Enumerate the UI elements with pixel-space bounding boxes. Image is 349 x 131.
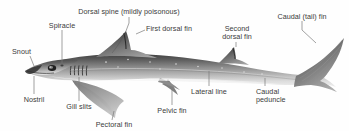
label-spiracle: Spiracle	[39, 22, 85, 30]
label-second-dorsal-fin-line2: dorsal fin	[211, 33, 263, 41]
label-lateral-line: Lateral line	[180, 88, 238, 96]
shark-anatomy-figure: Dorsal spine (mildly poisonous) First do…	[0, 0, 349, 131]
first-dorsal-fin-shape	[96, 31, 157, 58]
label-gill-slits: Gill slits	[56, 103, 102, 111]
label-pelvic-fin: Pelvic fin	[146, 107, 198, 115]
caudal-tail-fin-shape	[294, 38, 344, 92]
label-dorsal-spine: Dorsal spine (mildly poisonous)	[65, 8, 193, 16]
label-pectoral-fin: Pectoral fin	[83, 121, 145, 129]
label-first-dorsal-fin: First dorsal fin	[146, 25, 192, 33]
second-dorsal-fin-shape	[218, 47, 249, 65]
label-caudal-tail-fin: Caudal (tail) fin	[258, 13, 346, 21]
label-caudal-peduncle-line2: peduncle	[256, 96, 286, 104]
label-snout: Snout	[12, 48, 31, 56]
label-nostril: Nostril	[14, 96, 54, 104]
pectoral-fin-shape	[72, 80, 124, 118]
shark-body-shape	[25, 54, 336, 87]
